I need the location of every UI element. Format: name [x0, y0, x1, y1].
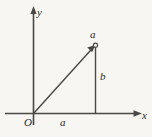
vertical-leg-label-b: b	[100, 71, 106, 82]
y-axis-label: y	[37, 7, 42, 18]
vector-segment	[34, 45, 96, 114]
origin-label: O	[24, 117, 32, 128]
horizontal-leg-label-a: a	[60, 117, 66, 128]
x-axis-arrowhead-icon	[134, 110, 143, 116]
y-axis	[30, 6, 36, 125]
x-axis-label: x	[142, 110, 147, 121]
y-axis-arrowhead-icon	[30, 6, 36, 14]
coordinate-diagram: y x a b a O	[0, 0, 152, 137]
point-label-a: a	[90, 29, 96, 40]
diagram-canvas	[0, 0, 152, 137]
point-marker	[93, 43, 97, 47]
vector-line	[34, 49, 93, 114]
